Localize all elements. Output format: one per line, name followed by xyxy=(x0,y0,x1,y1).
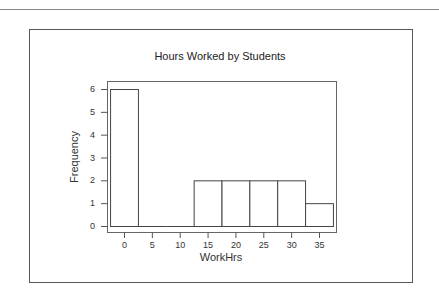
x-axis: 05101520253035 xyxy=(122,233,325,251)
histogram-bar xyxy=(111,90,139,227)
x-tick-label: 20 xyxy=(231,240,241,250)
x-tick-label: 0 xyxy=(122,240,127,250)
histogram-bar xyxy=(278,181,306,227)
x-tick-label: 35 xyxy=(314,240,324,250)
y-tick-label: 3 xyxy=(90,153,95,163)
x-tick-label: 10 xyxy=(175,240,185,250)
x-tick-label: 5 xyxy=(150,240,155,250)
y-tick-label: 6 xyxy=(90,84,95,94)
histogram-bar xyxy=(222,181,250,227)
bars xyxy=(111,90,334,227)
histogram-bar xyxy=(306,204,334,227)
y-tick-label: 5 xyxy=(90,107,95,117)
y-tick-label: 2 xyxy=(90,175,95,185)
x-axis-title: WorkHrs xyxy=(200,251,243,263)
x-tick-label: 15 xyxy=(203,240,213,250)
chart-title: Hours Worked by Students xyxy=(154,50,286,62)
y-axis-title: Frequency xyxy=(68,131,80,183)
x-tick-label: 25 xyxy=(259,240,269,250)
y-tick-label: 1 xyxy=(90,198,95,208)
y-axis: 0123456 xyxy=(90,84,108,231)
histogram-chart: Hours Worked by Students 0123456 0510152… xyxy=(0,0,439,302)
x-tick-label: 30 xyxy=(287,240,297,250)
y-tick-label: 4 xyxy=(90,130,95,140)
y-tick-label: 0 xyxy=(90,221,95,231)
histogram-bar xyxy=(194,181,222,227)
histogram-bar xyxy=(250,181,278,227)
